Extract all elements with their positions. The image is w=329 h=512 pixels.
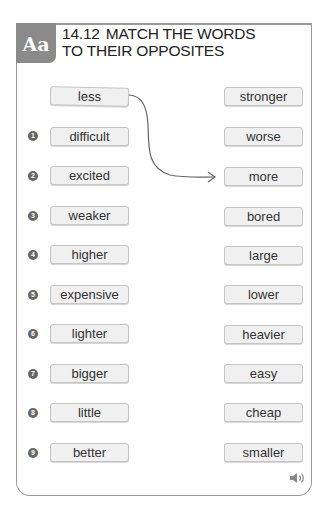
speaker-icon[interactable] [289,471,307,485]
example-arrow-icon [0,0,329,512]
